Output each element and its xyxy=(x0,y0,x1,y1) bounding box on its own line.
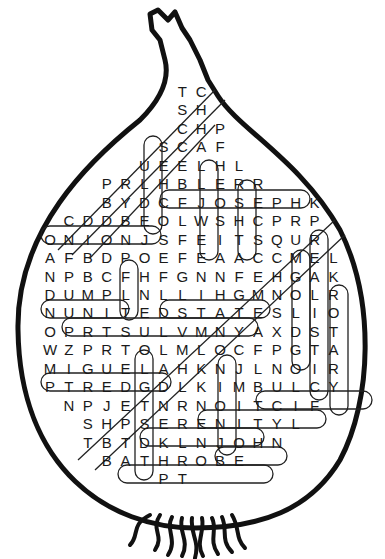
grid-letter: U xyxy=(60,304,78,322)
grid-letter: E xyxy=(117,360,135,378)
grid-letter: I xyxy=(306,304,324,322)
grid-letter: D xyxy=(98,212,116,230)
grid-letter: P xyxy=(268,212,286,230)
grid-letter: D xyxy=(41,286,59,304)
grid-letter: S xyxy=(211,212,229,230)
grid-letter: H xyxy=(268,268,286,286)
grid-letter: O xyxy=(154,212,172,230)
grid-letter: N xyxy=(41,268,59,286)
grid-letter: D xyxy=(287,323,305,341)
grid-letter: Q xyxy=(268,231,286,249)
grid-letter: T xyxy=(325,323,343,341)
grid-letter: H xyxy=(211,286,229,304)
grid-letter: E xyxy=(192,249,210,267)
grid-letter: U xyxy=(136,157,154,175)
grid-letter: V xyxy=(173,323,191,341)
grid-letter: R xyxy=(306,231,324,249)
grid-letter: H xyxy=(192,120,210,138)
grid-letter: S xyxy=(79,415,97,433)
grid-letter: H xyxy=(154,175,172,193)
grid-letter: R xyxy=(117,175,135,193)
grid-letter: O xyxy=(325,304,343,322)
grid-letter: E xyxy=(192,415,210,433)
grid-letter: P xyxy=(117,249,135,267)
grid-letter: P xyxy=(79,341,97,359)
grid-letter: G xyxy=(173,268,191,286)
grid-letter: C xyxy=(98,268,116,286)
grid-letter: A xyxy=(41,249,59,267)
grid-letter: P xyxy=(154,470,172,488)
grid-letter: B xyxy=(79,249,97,267)
grid-letter: K xyxy=(192,360,210,378)
grid-letter: N xyxy=(192,434,210,452)
grid-letter: H xyxy=(249,434,267,452)
grid-letter: M xyxy=(287,249,305,267)
grid-letter: R xyxy=(173,452,191,470)
grid-letter: B xyxy=(98,434,116,452)
grid-letter: P xyxy=(117,415,135,433)
grid-letter: L xyxy=(154,341,172,359)
grid-letter: C xyxy=(173,120,191,138)
grid-letter: T xyxy=(230,304,248,322)
grid-letter: G xyxy=(136,378,154,396)
grid-letter: C xyxy=(173,138,191,156)
grid-letter: E xyxy=(154,249,172,267)
grid-letter: U xyxy=(60,286,78,304)
grid-letter: O xyxy=(41,323,59,341)
word-search-puzzle: TCSHCHPSCAFUEELHLPRLHBLERRBYDCFJOSEPHKCD… xyxy=(0,0,385,559)
grid-letter: R xyxy=(249,175,267,193)
grid-letter: S xyxy=(154,138,172,156)
grid-letter: U xyxy=(98,360,116,378)
grid-letter: F xyxy=(211,138,229,156)
grid-letter: N xyxy=(192,268,210,286)
grid-letter: P xyxy=(211,120,229,138)
grid-letter: H xyxy=(230,212,248,230)
grid-letter: I xyxy=(287,397,305,415)
grid-letter: I xyxy=(79,231,97,249)
grid-letter: Y xyxy=(117,194,135,212)
grid-letter: L xyxy=(192,341,210,359)
grid-letter: N xyxy=(268,286,286,304)
grid-letter: T xyxy=(136,397,154,415)
grid-letter: T xyxy=(173,83,191,101)
grid-letter: G xyxy=(230,286,248,304)
grid-letter: A xyxy=(249,323,267,341)
grid-letter: F xyxy=(117,268,135,286)
grid-letter: S xyxy=(268,304,286,322)
grid-letter: L xyxy=(136,360,154,378)
grid-letter: O xyxy=(287,360,305,378)
grid-letter: O xyxy=(192,452,210,470)
grid-letter: L xyxy=(249,360,267,378)
grid-letter: I xyxy=(211,231,229,249)
grid-letter: C xyxy=(268,397,286,415)
grid-letter: I xyxy=(230,415,248,433)
grid-letter: L xyxy=(287,304,305,322)
grid-letter: B xyxy=(98,194,116,212)
grid-letter: O xyxy=(136,249,154,267)
grid-letter: L xyxy=(154,286,172,304)
grid-letter: T xyxy=(117,341,135,359)
grid-letter: M xyxy=(249,286,267,304)
grid-letter: T xyxy=(230,231,248,249)
grid-letter: F xyxy=(230,268,248,286)
grid-letter: A xyxy=(325,341,343,359)
grid-letter: Y xyxy=(325,378,343,396)
grid-letter: S xyxy=(230,194,248,212)
grid-letter: T xyxy=(60,378,78,396)
grid-letter: K xyxy=(306,194,324,212)
grid-letter: L xyxy=(117,286,135,304)
grid-letter: C xyxy=(249,249,267,267)
grid-letter: P xyxy=(41,378,59,396)
grid-letter: W xyxy=(41,341,59,359)
grid-letter: Y xyxy=(230,323,248,341)
grid-letter: D xyxy=(98,249,116,267)
grid-letter: F xyxy=(306,397,324,415)
grid-letter: R xyxy=(287,212,305,230)
grid-letter: R xyxy=(79,323,97,341)
grid-letter: K xyxy=(192,378,210,396)
grid-letter: G xyxy=(287,268,305,286)
grid-letter: H xyxy=(173,360,191,378)
grid-letter: D xyxy=(136,434,154,452)
grid-letter: W xyxy=(192,212,210,230)
grid-letter: J xyxy=(192,194,210,212)
